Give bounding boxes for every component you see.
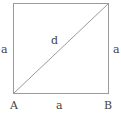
diagonal-line xyxy=(14,4,109,94)
right-side-label: a xyxy=(113,44,120,55)
vertex-b-label: B xyxy=(104,100,112,111)
vertex-a-label: A xyxy=(10,100,18,111)
square-diagonal-diagram: a a d A a B xyxy=(0,0,121,129)
left-side-label: a xyxy=(1,44,8,55)
bottom-side-label: a xyxy=(56,100,63,111)
diagonal-label: d xyxy=(51,35,58,46)
